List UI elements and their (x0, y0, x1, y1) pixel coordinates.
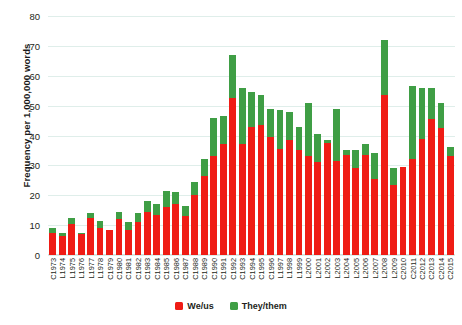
bar-slot[interactable] (152, 16, 161, 255)
bar-slot[interactable] (323, 16, 332, 255)
bar-segment-we-us[interactable] (106, 230, 113, 255)
bar-stack[interactable] (390, 168, 397, 255)
bar-slot[interactable] (427, 16, 436, 255)
bar-segment-we-us[interactable] (163, 207, 170, 255)
bar-segment-they-them[interactable] (314, 134, 321, 162)
bar-slot[interactable] (275, 16, 284, 255)
bar-slot[interactable] (143, 16, 152, 255)
bar-stack[interactable] (296, 127, 303, 255)
bar-slot[interactable] (379, 16, 388, 255)
bar-slot[interactable] (48, 16, 57, 255)
bar-stack[interactable] (78, 233, 85, 255)
bar-stack[interactable] (248, 92, 255, 255)
bar-stack[interactable] (362, 144, 369, 255)
bar-slot[interactable] (67, 16, 76, 255)
bar-segment-they-them[interactable] (371, 153, 378, 178)
bar-stack[interactable] (447, 147, 454, 255)
bar-segment-they-them[interactable] (125, 222, 132, 229)
bar-segment-they-them[interactable] (419, 88, 426, 139)
bar-segment-they-them[interactable] (201, 159, 208, 175)
bar-segment-they-them[interactable] (144, 201, 151, 211)
bar-slot[interactable] (171, 16, 180, 255)
bar-slot[interactable] (181, 16, 190, 255)
bar-stack[interactable] (352, 150, 359, 255)
bar-segment-we-us[interactable] (182, 216, 189, 255)
bar-stack[interactable] (229, 55, 236, 255)
bar-segment-they-them[interactable] (97, 221, 104, 228)
bar-segment-we-us[interactable] (447, 156, 454, 255)
bar-segment-we-us[interactable] (305, 156, 312, 255)
bar-segment-we-us[interactable] (68, 224, 75, 255)
bar-slot[interactable] (114, 16, 123, 255)
bar-segment-we-us[interactable] (144, 212, 151, 255)
bar-slot[interactable] (209, 16, 218, 255)
bar-stack[interactable] (343, 150, 350, 255)
bar-segment-they-them[interactable] (229, 55, 236, 98)
bar-segment-they-them[interactable] (191, 182, 198, 195)
bar-segment-we-us[interactable] (87, 218, 94, 255)
bar-stack[interactable] (87, 213, 94, 255)
bar-slot[interactable] (370, 16, 379, 255)
bar-segment-they-them[interactable] (248, 92, 255, 126)
bar-segment-they-them[interactable] (438, 103, 445, 128)
bar-segment-we-us[interactable] (419, 139, 426, 256)
bar-segment-they-them[interactable] (305, 103, 312, 157)
bar-slot[interactable] (133, 16, 142, 255)
bar-slot[interactable] (304, 16, 313, 255)
bar-slot[interactable] (417, 16, 426, 255)
bar-slot[interactable] (285, 16, 294, 255)
bar-stack[interactable] (267, 109, 274, 255)
bar-segment-we-us[interactable] (286, 140, 293, 255)
bar-slot[interactable] (162, 16, 171, 255)
bar-slot[interactable] (218, 16, 227, 255)
bar-segment-we-us[interactable] (314, 162, 321, 255)
bar-segment-we-us[interactable] (229, 98, 236, 255)
bar-stack[interactable] (172, 192, 179, 255)
bar-slot[interactable] (342, 16, 351, 255)
bar-segment-they-them[interactable] (362, 144, 369, 154)
bar-stack[interactable] (381, 40, 388, 255)
bar-segment-they-them[interactable] (116, 212, 123, 219)
bar-segment-we-us[interactable] (220, 144, 227, 255)
bar-stack[interactable] (59, 233, 66, 255)
bar-stack[interactable] (144, 201, 151, 255)
bar-segment-we-us[interactable] (78, 234, 85, 255)
bar-segment-they-them[interactable] (135, 213, 142, 222)
bar-slot[interactable] (436, 16, 445, 255)
bar-stack[interactable] (419, 88, 426, 255)
bar-segment-we-us[interactable] (201, 176, 208, 255)
bar-segment-we-us[interactable] (428, 119, 435, 255)
bar-stack[interactable] (305, 103, 312, 255)
bar-stack[interactable] (428, 88, 435, 255)
bar-slot[interactable] (190, 16, 199, 255)
bar-slot[interactable] (200, 16, 209, 255)
bar-segment-we-us[interactable] (352, 168, 359, 255)
bar-segment-they-them[interactable] (182, 206, 189, 216)
bar-segment-they-them[interactable] (447, 147, 454, 156)
bar-segment-we-us[interactable] (277, 149, 284, 255)
bar-slot[interactable] (332, 16, 341, 255)
bar-segment-we-us[interactable] (400, 167, 407, 255)
bar-stack[interactable] (220, 116, 227, 255)
bar-slot[interactable] (76, 16, 85, 255)
bar-slot[interactable] (360, 16, 369, 255)
bar-stack[interactable] (210, 118, 217, 255)
bar-segment-we-us[interactable] (409, 159, 416, 255)
bar-segment-we-us[interactable] (267, 137, 274, 255)
bar-segment-they-them[interactable] (220, 116, 227, 144)
bar-stack[interactable] (135, 213, 142, 255)
bar-segment-we-us[interactable] (296, 150, 303, 255)
bar-stack[interactable] (68, 218, 75, 255)
bar-slot[interactable] (398, 16, 407, 255)
bar-stack[interactable] (371, 153, 378, 255)
bar-segment-we-us[interactable] (438, 128, 445, 255)
bar-segment-they-them[interactable] (267, 109, 274, 137)
legend-item[interactable]: They/them (230, 301, 287, 311)
bar-segment-they-them[interactable] (286, 112, 293, 140)
bar-stack[interactable] (153, 204, 160, 255)
bar-stack[interactable] (409, 86, 416, 255)
bar-stack[interactable] (116, 212, 123, 255)
bar-segment-we-us[interactable] (381, 95, 388, 255)
bar-segment-we-us[interactable] (116, 219, 123, 255)
bar-slot[interactable] (124, 16, 133, 255)
